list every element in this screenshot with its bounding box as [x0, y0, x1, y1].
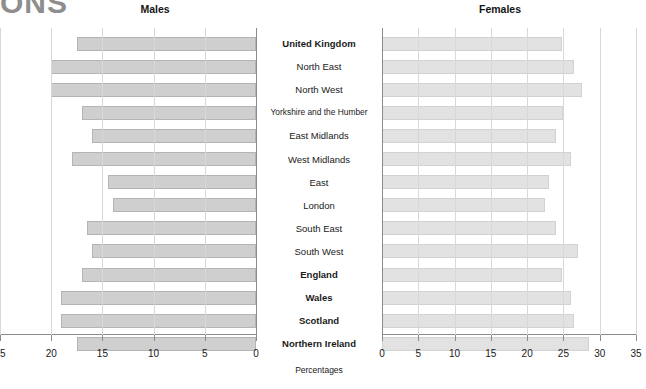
bar-row — [382, 240, 636, 263]
axis-line-males — [0, 334, 256, 335]
bar — [77, 37, 256, 51]
axis-tick — [205, 335, 206, 341]
bar-row — [382, 263, 636, 286]
category-label: West Midlands — [256, 148, 382, 171]
bar — [382, 175, 549, 189]
bar — [382, 129, 556, 143]
category-label: East — [256, 171, 382, 194]
axis-tick — [563, 335, 564, 341]
axis-tick — [0, 335, 1, 341]
bar — [82, 106, 256, 120]
axis-tick-label: 30 — [585, 348, 615, 359]
bar-row — [382, 286, 636, 309]
category-label: South East — [256, 217, 382, 240]
axis-tick-label: 15 — [476, 348, 506, 359]
gridline — [51, 28, 52, 335]
axis-tick-label: 15 — [87, 348, 117, 359]
axis-tick-label: 10 — [139, 348, 169, 359]
bar-rows-males — [0, 28, 256, 335]
category-label: Northern Ireland — [256, 332, 382, 355]
axis-tick — [154, 335, 155, 341]
bar — [92, 244, 256, 258]
gridline — [527, 28, 528, 335]
bar-row — [382, 101, 636, 124]
axis-tick — [491, 335, 492, 341]
category-label: North West — [256, 78, 382, 101]
axis-tick — [102, 335, 103, 341]
bar-row — [0, 124, 256, 147]
bar-row — [0, 217, 256, 240]
gridline — [491, 28, 492, 335]
logo-text: ONS — [0, 0, 86, 16]
axis-tick — [382, 335, 383, 341]
category-label: North East — [256, 55, 382, 78]
axis-tick-label: 25 — [0, 348, 15, 359]
axis-tick — [527, 335, 528, 341]
bar-row — [382, 124, 636, 147]
bar-rows-females — [382, 28, 636, 335]
axis-tick-label: 20 — [36, 348, 66, 359]
category-label: London — [256, 194, 382, 217]
category-label-column: United KingdomNorth EastNorth WestYorksh… — [256, 28, 382, 367]
bar — [108, 175, 256, 189]
axis-tick-label: 25 — [548, 348, 578, 359]
axis-tick-label: 5 — [190, 348, 220, 359]
axis-tick-label: 20 — [512, 348, 542, 359]
ons-logo: ONS — [0, 0, 86, 16]
bar-row — [382, 309, 636, 332]
bar-row — [0, 309, 256, 332]
bar — [92, 129, 256, 143]
axis-tick-label: 5 — [403, 348, 433, 359]
gridline — [418, 28, 419, 335]
bar-row — [382, 171, 636, 194]
bar-row — [0, 286, 256, 309]
bar — [382, 60, 574, 74]
bar — [382, 244, 578, 258]
bar-row — [382, 78, 636, 101]
axis-tick — [636, 335, 637, 341]
gridline — [455, 28, 456, 335]
gridline — [102, 28, 103, 335]
axis-tick-label: 35 — [621, 348, 646, 359]
gridline — [600, 28, 601, 335]
bar-row — [0, 78, 256, 101]
axis-tick — [418, 335, 419, 341]
gridline — [563, 28, 564, 335]
bar — [382, 37, 562, 51]
category-label: Wales — [256, 286, 382, 309]
category-label: Yorkshire and the Humber — [256, 101, 382, 124]
bar-row — [0, 32, 256, 55]
bar-row — [0, 148, 256, 171]
bar-row — [382, 55, 636, 78]
bar — [382, 83, 582, 97]
bar — [382, 291, 571, 305]
bar — [382, 198, 545, 212]
axis-tick — [455, 335, 456, 341]
bar-row — [0, 55, 256, 78]
bar-row — [0, 194, 256, 217]
bar — [382, 152, 571, 166]
bar — [382, 221, 556, 235]
axis-line-females — [382, 334, 636, 335]
gridline — [205, 28, 206, 335]
bar — [113, 198, 256, 212]
bar — [72, 152, 256, 166]
bar — [82, 268, 256, 282]
axis-title: Percentages — [256, 365, 382, 375]
axis-tick — [51, 335, 52, 341]
bar-row — [382, 148, 636, 171]
bar — [87, 221, 256, 235]
chart-panel-females: 05101520253035 — [382, 28, 636, 367]
bar — [382, 106, 563, 120]
category-label: East Midlands — [256, 124, 382, 147]
gridline — [0, 28, 1, 335]
panel-title-males: Males — [75, 3, 235, 15]
bar-row — [0, 101, 256, 124]
bar-row — [382, 217, 636, 240]
axis-tick — [600, 335, 601, 341]
bar-row — [382, 32, 636, 55]
chart-panel-males: 2520151050 — [0, 28, 256, 367]
bar-row — [0, 263, 256, 286]
category-label: England — [256, 263, 382, 286]
